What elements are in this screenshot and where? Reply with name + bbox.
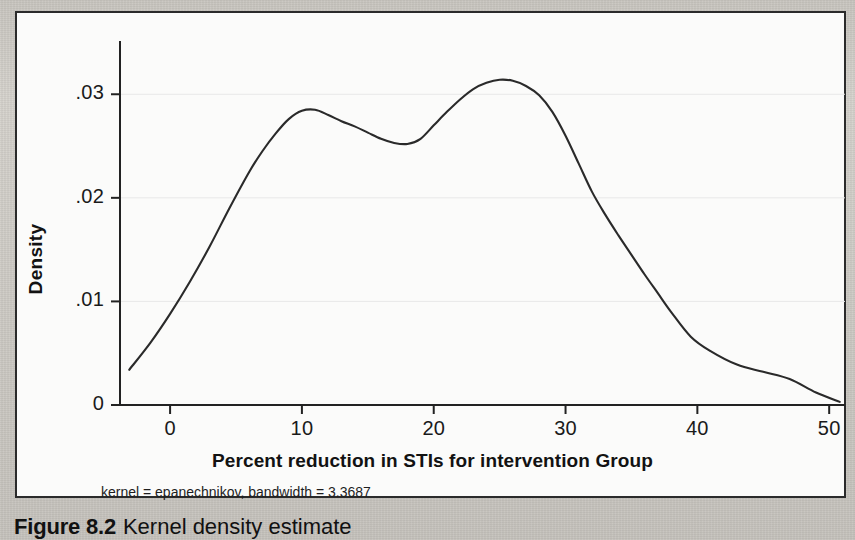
x-axis-title: Percent reduction in STIs for interventi… bbox=[17, 450, 848, 472]
figure-frame: 0.01.02.0301020304050 Density Percent re… bbox=[15, 11, 846, 498]
x-tick-label: 40 bbox=[657, 417, 737, 440]
plot-area: 0.01.02.0301020304050 bbox=[17, 13, 848, 500]
chart-subtitle-note: kernel = epanechnikov, bandwidth = 3.368… bbox=[101, 484, 371, 500]
y-axis-title: Density bbox=[25, 199, 47, 319]
figure-caption: Figure 8.2Kernel density estimate bbox=[14, 514, 352, 540]
density-curve bbox=[129, 80, 840, 402]
figure-caption-text: Kernel density estimate bbox=[123, 514, 352, 539]
x-tick-label: 30 bbox=[526, 417, 606, 440]
figure-caption-label: Figure 8.2 bbox=[14, 514, 116, 539]
x-tick-label: 10 bbox=[262, 417, 342, 440]
y-tick-label: .02 bbox=[42, 185, 104, 208]
x-tick-label: 50 bbox=[789, 417, 855, 440]
x-tick-label: 20 bbox=[394, 417, 474, 440]
y-tick-label: 0 bbox=[42, 392, 104, 415]
y-tick-label: .01 bbox=[42, 288, 104, 311]
y-tick-label: .03 bbox=[42, 81, 104, 104]
x-tick-label: 0 bbox=[130, 417, 210, 440]
